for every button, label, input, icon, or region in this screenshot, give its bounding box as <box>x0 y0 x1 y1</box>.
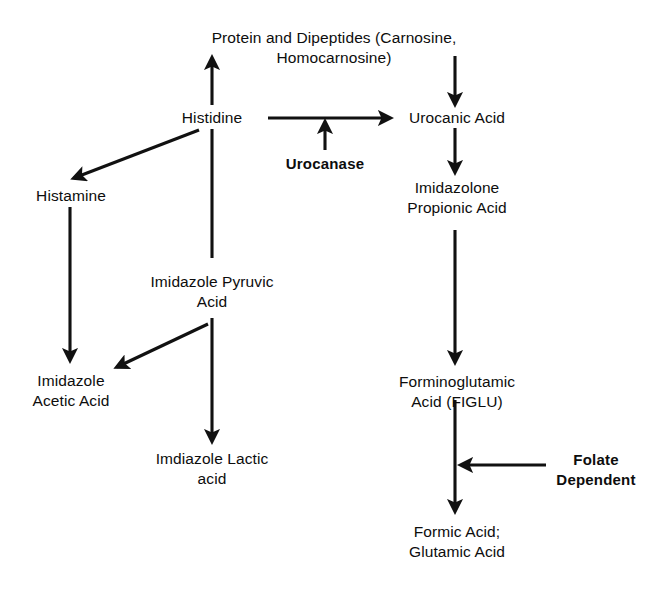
node-figlu: Forminoglutamic Acid (FIGLU) <box>399 372 515 412</box>
node-urocanic_acid: Urocanic Acid <box>409 108 505 128</box>
node-formic_acid: Formic Acid; Glutamic Acid <box>409 522 505 562</box>
node-imidazolone: Imidazolone Propionic Acid <box>407 178 507 218</box>
node-urocanase: Urocanase <box>286 154 365 174</box>
node-imid_pyruvic: Imidazole Pyruvic Acid <box>150 272 273 312</box>
node-protein: Protein and Dipeptides (Carnosine, Homoc… <box>167 28 501 68</box>
arrow-layer <box>0 0 668 589</box>
node-folate: Folate Dependent <box>556 450 635 490</box>
node-imid_acetic: Imidazole Acetic Acid <box>33 371 110 411</box>
node-imid_lactic: Imdiazole Lactic acid <box>156 449 269 489</box>
node-histidine: Histidine <box>182 108 242 128</box>
pathway-diagram: Protein and Dipeptides (Carnosine, Homoc… <box>0 0 668 589</box>
edge-histidine-to-histamine <box>74 130 199 178</box>
node-histamine: Histamine <box>36 186 106 206</box>
edge-imid-pyruvic-to-imid-acetic <box>117 324 208 367</box>
